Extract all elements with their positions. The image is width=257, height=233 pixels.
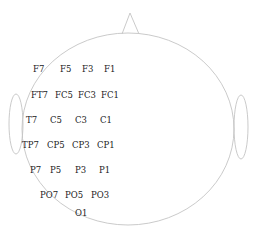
electrode-label-fc1: FC1 xyxy=(101,90,119,100)
electrode-label-p3: P3 xyxy=(75,165,86,175)
electrode-label-t7: T7 xyxy=(26,115,37,125)
electrode-labels: F7F5F3F1FT7FC5FC3FC1T7C5C3C1TP7CP5CP3CP1… xyxy=(22,64,119,218)
electrode-label-fc5: FC5 xyxy=(55,90,73,100)
electrode-label-cp5: CP5 xyxy=(47,140,65,150)
electrode-label-cp3: CP3 xyxy=(72,140,90,150)
electrode-label-p5: P5 xyxy=(50,165,61,175)
electrode-label-c5: C5 xyxy=(50,115,62,125)
electrode-label-ft7: FT7 xyxy=(31,90,48,100)
electrode-label-f7: F7 xyxy=(33,64,44,74)
nose-icon xyxy=(122,13,139,34)
electrode-label-po5: PO5 xyxy=(65,190,83,200)
electrode-label-c1: C1 xyxy=(100,115,112,125)
electrode-label-tp7: TP7 xyxy=(22,140,39,150)
electrode-label-fc3: FC3 xyxy=(78,90,96,100)
electrode-label-p1: P1 xyxy=(99,165,110,175)
electrode-label-f5: F5 xyxy=(60,64,71,74)
electrode-label-f3: F3 xyxy=(82,64,93,74)
electrode-label-po3: PO3 xyxy=(91,190,109,200)
left-ear-icon xyxy=(9,94,23,154)
electrode-label-p7: P7 xyxy=(30,165,41,175)
electrode-label-po7: PO7 xyxy=(40,190,58,200)
electrode-label-cp1: CP1 xyxy=(97,140,115,150)
electrode-label-f1: F1 xyxy=(104,64,115,74)
eeg-head-diagram: F7F5F3F1FT7FC5FC3FC1T7C5C3C1TP7CP5CP3CP1… xyxy=(0,0,257,233)
electrode-label-c3: C3 xyxy=(75,115,87,125)
electrode-label-o1: O1 xyxy=(75,208,87,218)
right-ear-icon xyxy=(234,95,248,159)
